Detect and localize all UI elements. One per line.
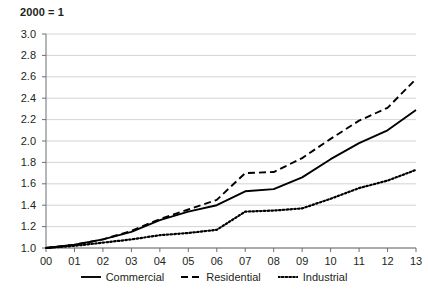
- y-axis-tick-label: 3.0: [2, 29, 36, 40]
- y-axis-tick-label: 1.6: [2, 178, 36, 189]
- y-axis-tick-label: 2.0: [2, 136, 36, 147]
- x-axis-tick-label: 10: [316, 256, 346, 267]
- y-axis-tick-label: 1.2: [2, 221, 36, 232]
- x-axis-tick-label: 03: [116, 256, 146, 267]
- series-line-industrial: [46, 170, 416, 248]
- legend-swatch-icon: [81, 272, 101, 282]
- x-axis-tick-label: 09: [287, 256, 317, 267]
- y-axis-tick-label: 2.8: [2, 50, 36, 61]
- x-axis-tick-label: 11: [344, 256, 374, 267]
- legend-label: Commercial: [106, 271, 165, 283]
- x-axis-tick-label: 05: [173, 256, 203, 267]
- y-axis-tick-label: 1.0: [2, 243, 36, 254]
- legend-item-residential[interactable]: Residential: [181, 271, 260, 283]
- x-axis-tick-label: 01: [59, 256, 89, 267]
- series-line-residential: [46, 79, 416, 248]
- legend-item-industrial[interactable]: Industrial: [278, 271, 348, 283]
- legend-swatch-icon: [278, 272, 298, 282]
- y-axis-tick-label: 2.4: [2, 93, 36, 104]
- legend-label: Residential: [206, 271, 260, 283]
- y-axis-tick-label: 1.8: [2, 157, 36, 168]
- line-chart: 2000 = 1 3.02.82.62.42.22.01.81.61.41.21…: [0, 0, 428, 295]
- legend-swatch-icon: [181, 272, 201, 282]
- x-axis-tick-label: 07: [230, 256, 260, 267]
- x-axis-tick-label: 08: [259, 256, 289, 267]
- x-axis-tick-label: 02: [88, 256, 118, 267]
- legend-label: Industrial: [303, 271, 348, 283]
- x-axis-tick-label: 06: [202, 256, 232, 267]
- x-axis-tick-label: 00: [31, 256, 61, 267]
- chart-legend: CommercialResidentialIndustrial: [0, 271, 428, 283]
- series-line-commercial: [46, 110, 416, 248]
- plot-area: [0, 0, 428, 295]
- legend-item-commercial[interactable]: Commercial: [81, 271, 165, 283]
- x-axis-tick-label: 04: [145, 256, 175, 267]
- y-axis-tick-label: 1.4: [2, 200, 36, 211]
- x-axis-tick-label: 12: [373, 256, 403, 267]
- y-axis-tick-label: 2.2: [2, 114, 36, 125]
- x-axis-tick-label: 13: [401, 256, 428, 267]
- y-axis-tick-label: 2.6: [2, 71, 36, 82]
